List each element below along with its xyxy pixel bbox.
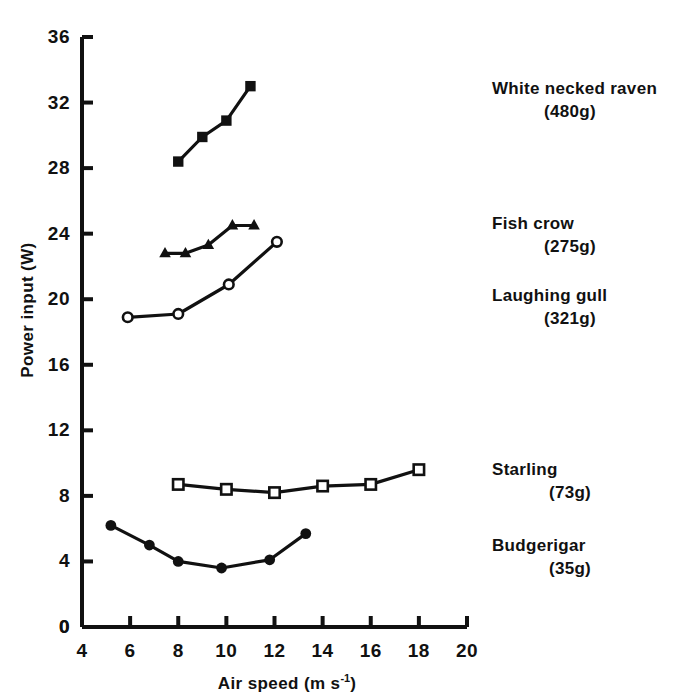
y-tick-label-12: 12 — [32, 420, 70, 439]
legend-species-name: White necked raven — [492, 78, 674, 101]
y-tick-label-36: 36 — [32, 27, 70, 46]
x-tick-label-16: 16 — [351, 641, 391, 660]
data-point-filled-square — [173, 156, 183, 166]
x-axis-title: Air speed (m s-1) — [82, 672, 492, 694]
legend-species-mass: (275g) — [492, 236, 674, 259]
legend-entry-white-necked-raven: White necked raven(480g) — [492, 78, 674, 124]
data-point-open-circle — [224, 280, 234, 290]
data-point-filled-circle — [105, 520, 116, 531]
legend-species-mass: (480g) — [492, 101, 674, 124]
data-point-filled-circle — [144, 540, 155, 551]
data-point-open-circle — [123, 312, 133, 322]
legend-species-mass: (35g) — [492, 558, 674, 581]
data-point-open-square — [269, 487, 279, 497]
x-tick-label-10: 10 — [206, 641, 246, 660]
legend-species-mass: (321g) — [492, 308, 674, 331]
data-point-open-square — [221, 484, 231, 494]
series-laughing-gull — [123, 237, 282, 322]
y-tick-label-4: 4 — [32, 551, 70, 570]
y-tick-label-32: 32 — [32, 93, 70, 112]
series-starling — [173, 464, 424, 497]
legend-species-name: Budgerigar — [492, 535, 674, 558]
data-point-open-square — [366, 479, 376, 489]
x-tick-label-6: 6 — [110, 641, 150, 660]
legend-entry-laughing-gull: Laughing gull(321g) — [492, 285, 674, 331]
legend-species-name: Starling — [492, 459, 674, 482]
data-point-open-square — [414, 464, 424, 474]
x-tick-label-12: 12 — [255, 641, 295, 660]
data-point-filled-square — [221, 115, 231, 125]
x-tick-label-8: 8 — [158, 641, 198, 660]
legend-species-name: Fish crow — [492, 213, 674, 236]
x-tick-label-18: 18 — [399, 641, 439, 660]
data-series-group — [105, 81, 424, 573]
x-tick-label-20: 20 — [447, 641, 487, 660]
data-point-open-square — [173, 479, 183, 489]
series-white-necked-raven — [173, 81, 256, 167]
data-point-filled-circle — [264, 554, 275, 565]
x-axis-title-exponent: -1 — [340, 672, 350, 684]
legend-entry-fish-crow: Fish crow(275g) — [492, 213, 674, 259]
series-budgerigar — [105, 520, 311, 573]
data-point-filled-square — [245, 81, 255, 91]
data-point-open-circle — [272, 237, 282, 247]
series-fish-crow — [159, 219, 260, 257]
x-tick-label-4: 4 — [62, 641, 102, 660]
data-point-filled-circle — [173, 556, 184, 567]
data-point-filled-square — [197, 132, 207, 142]
legend-species-mass: (73g) — [492, 482, 674, 505]
data-point-open-square — [317, 481, 327, 491]
x-tick-label-14: 14 — [303, 641, 343, 660]
y-tick-label-8: 8 — [32, 486, 70, 505]
legend-entry-starling: Starling(73g) — [492, 459, 674, 505]
data-point-open-circle — [173, 309, 183, 319]
legend-species-name: Laughing gull — [492, 285, 674, 308]
x-axis-title-end: ) — [350, 674, 356, 693]
figure-chart: 048121620242832360 468101214161820 Power… — [0, 0, 674, 700]
data-point-filled-circle — [216, 563, 227, 574]
data-point-filled-circle — [300, 528, 311, 539]
x-axis-title-main: Air speed (m s — [218, 674, 341, 693]
origin-label: 0 — [32, 617, 70, 636]
legend-entry-budgerigar: Budgerigar(35g) — [492, 535, 674, 581]
y-axis-title: Power input (W) — [18, 220, 38, 400]
y-tick-label-28: 28 — [32, 158, 70, 177]
